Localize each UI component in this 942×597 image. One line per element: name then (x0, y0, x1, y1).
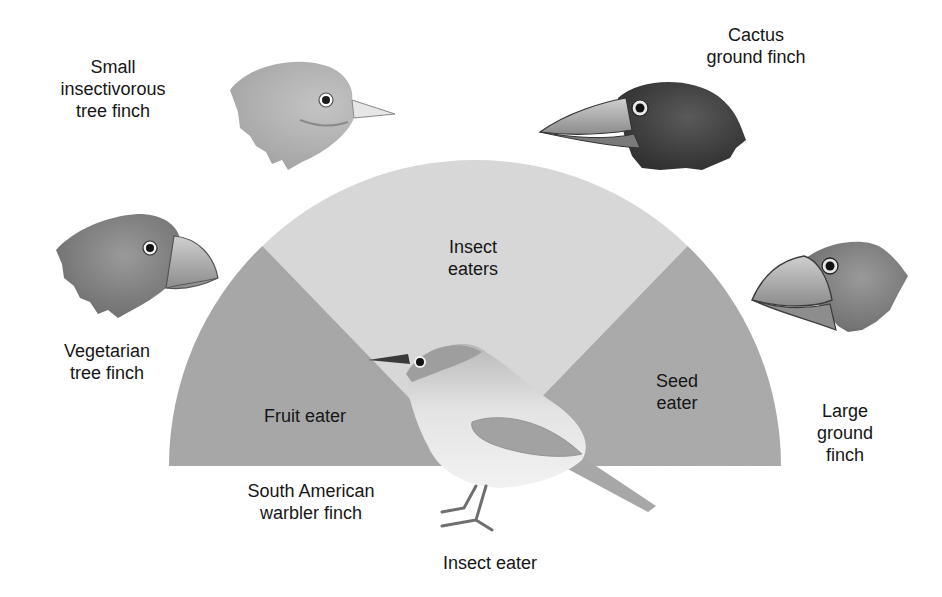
small-insectivorous-tree-finch-icon (230, 62, 395, 170)
sector-label-seed-eater: Seed eater (656, 370, 698, 414)
sector-label-insect-eaters: Insect eaters (448, 236, 498, 280)
vegetarian-tree-finch-icon (56, 214, 218, 318)
label-south-american-warbler-finch: South American warbler finch (247, 480, 374, 524)
sector-label-fruit-eater: Fruit eater (264, 405, 346, 427)
finch-beak-diagram: Small insectivorous tree finch Cactus gr… (0, 0, 942, 597)
caption-insect-eater: Insect eater (443, 552, 537, 574)
label-vegetarian-tree-finch: Vegetarian tree finch (64, 340, 150, 384)
label-cactus-ground-finch: Cactus ground finch (706, 24, 805, 68)
label-small-insectivorous-tree-finch: Small insectivorous tree finch (60, 56, 165, 122)
label-large-ground-finch: Large ground finch (817, 400, 873, 466)
cactus-ground-finch-icon (540, 82, 746, 170)
large-ground-finch-icon (752, 242, 908, 332)
